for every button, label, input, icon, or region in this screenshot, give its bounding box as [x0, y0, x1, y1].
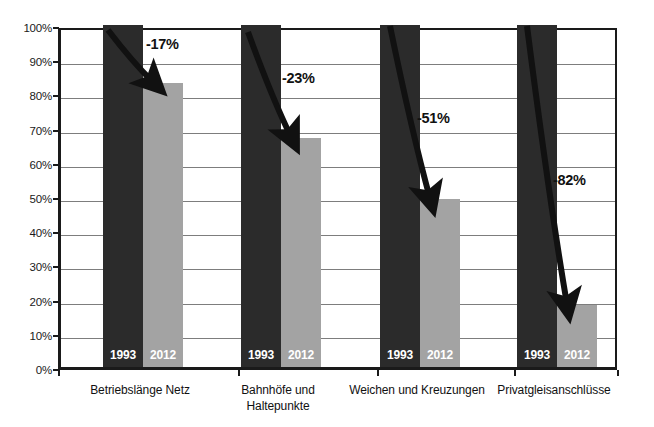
y-axis-tick-label: 90%: [6, 56, 52, 68]
change-percentage-label: -23%: [282, 70, 315, 86]
x-axis-tick-mark: [58, 370, 60, 376]
bar-year-label-2012: 2012: [143, 348, 183, 362]
y-axis-tick-label: 70%: [6, 125, 52, 137]
bar-1993: 1993: [241, 25, 281, 367]
bar-1993: 1993: [103, 25, 143, 367]
bar-year-label-1993: 1993: [517, 348, 557, 362]
bar-year-label-1993: 1993: [380, 348, 420, 362]
y-axis-tick-label: 50%: [6, 193, 52, 205]
y-axis-tick-label: 100%: [6, 22, 52, 34]
change-percentage-label: -82%: [553, 172, 586, 188]
bar-year-label-1993: 1993: [241, 348, 281, 362]
y-axis-tick-label: 20%: [6, 296, 52, 308]
x-axis-tick-mark: [617, 370, 619, 376]
y-axis-tick-label: 80%: [6, 90, 52, 102]
category-label-line: Privatgleisanschlüsse: [469, 382, 639, 398]
chart-screenshot: 100%90%80%70%60%50%40%30%20%10%0% 199320…: [0, 0, 654, 427]
y-axis-tick-label: 60%: [6, 159, 52, 171]
x-axis-tick-mark: [238, 370, 240, 376]
bar-year-label-1993: 1993: [103, 348, 143, 362]
bar-year-label-2012: 2012: [420, 348, 460, 362]
bar-2012: 2012: [557, 305, 597, 367]
bar-2012: 2012: [281, 138, 321, 367]
bar-year-label-2012: 2012: [281, 348, 321, 362]
category-label: Privatgleisanschlüsse: [469, 382, 639, 398]
bar-2012: 2012: [420, 199, 460, 367]
bar-year-label-2012: 2012: [557, 348, 597, 362]
bar-1993: 1993: [380, 25, 420, 367]
bar-1993: 1993: [517, 25, 557, 367]
change-percentage-label: -17%: [146, 36, 179, 52]
y-axis-tick-label: 0%: [6, 364, 52, 376]
plot-area: 19932012199320121993201219932012: [58, 28, 617, 370]
y-axis-tick-label: 30%: [6, 261, 52, 273]
y-axis-tick-label: 10%: [6, 330, 52, 342]
y-axis-tick-label: 40%: [6, 227, 52, 239]
x-axis-tick-mark: [514, 370, 516, 376]
x-axis-tick-mark: [377, 370, 379, 376]
category-label-line: Haltepunkte: [193, 398, 363, 414]
bar-2012: 2012: [143, 83, 183, 367]
change-percentage-label: -51%: [417, 110, 450, 126]
